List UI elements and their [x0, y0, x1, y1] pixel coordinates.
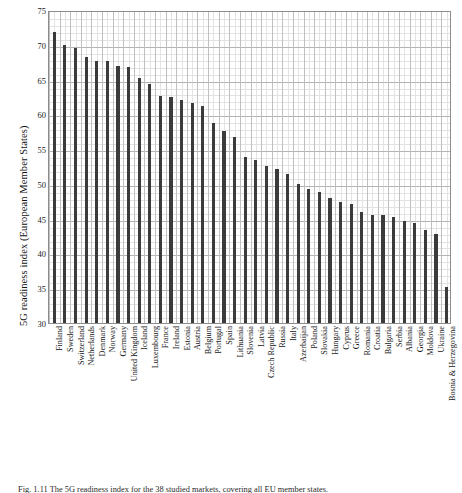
x-axis-tick-label: Germany	[120, 326, 128, 356]
y-axis-tick-label: 35	[22, 285, 46, 294]
x-axis-tick-label: Albania	[406, 326, 414, 352]
y-axis-tick-label: 50	[22, 181, 46, 190]
bar	[328, 198, 331, 323]
y-axis-tick-label: 70	[22, 42, 46, 51]
bar	[201, 106, 204, 323]
y-axis-tick-label: 55	[22, 146, 46, 155]
x-axis-tick-label: Norway	[109, 326, 117, 352]
y-axis-tick-label: 45	[22, 216, 46, 225]
x-axis-tick-label: United Kingdom	[131, 326, 139, 381]
bar	[350, 204, 353, 323]
x-axis-tick-label: Austria	[194, 326, 202, 350]
x-axis-tick-label: Italy	[290, 326, 298, 341]
x-axis-tick-label: Iceland	[141, 326, 149, 350]
x-axis-tick-label: Denmark	[99, 326, 107, 356]
bar	[85, 57, 88, 323]
bar	[212, 123, 215, 323]
bar	[318, 192, 321, 323]
bar	[53, 32, 56, 323]
x-axis-tick-label: Latvia	[258, 326, 266, 347]
bar	[275, 169, 278, 323]
bar	[138, 78, 141, 323]
bar	[63, 45, 66, 323]
x-axis-tick-label: Belgium	[205, 326, 213, 354]
bar	[392, 217, 395, 323]
bar	[95, 61, 98, 323]
bar	[222, 131, 225, 323]
x-axis-tick-label: Sweden	[67, 326, 75, 352]
y-axis-tick-label: 65	[22, 77, 46, 86]
x-axis-tick-label: Ukraine	[438, 326, 446, 352]
bar	[233, 137, 236, 323]
bar	[413, 223, 416, 323]
bar	[106, 61, 109, 323]
x-axis-tick-label: Switzerland	[78, 326, 86, 365]
bar	[297, 184, 300, 323]
x-axis-tick-label: Bulgaria	[385, 326, 393, 354]
bar	[244, 157, 247, 323]
x-axis-tick-label: Azerbaijan	[300, 326, 308, 362]
x-axis-tick-label: Lithuania	[237, 326, 245, 357]
bar	[381, 215, 384, 323]
bar	[403, 221, 406, 323]
figure-container: a digital infrastructure comparison of 5…	[0, 0, 462, 493]
x-axis-tick-label: Romania	[364, 326, 372, 356]
x-axis-tick-label: Hungary	[332, 326, 340, 355]
x-axis-tick-label: Ireland	[173, 326, 181, 349]
x-axis-tick-labels: FinlandSwedenSwitzerlandNetherlandsDenma…	[48, 326, 451, 466]
bar	[371, 215, 374, 324]
x-axis-tick-label: Poland	[311, 326, 319, 349]
x-axis-tick-label: Portugal	[215, 326, 223, 354]
bar	[424, 230, 427, 323]
bar	[116, 66, 119, 323]
x-axis-tick-label: Slovakia	[321, 326, 329, 355]
x-axis-tick-label: Netherlands	[88, 326, 96, 366]
bar	[180, 100, 183, 323]
x-axis-tick-label: Russia	[279, 326, 287, 348]
x-axis-tick-label: Georgia	[417, 326, 425, 352]
bar	[286, 174, 289, 323]
x-axis-tick-label: Croatia	[374, 326, 382, 350]
plot-area	[48, 11, 451, 324]
x-axis-tick-label: Luxembourg	[152, 326, 160, 368]
figure-caption: Fig. 1.11 The 5G readiness index for the…	[18, 485, 450, 493]
bar	[127, 67, 130, 323]
y-axis-tick-label: 30	[22, 320, 46, 329]
x-axis-tick-label: Czech Republic	[268, 326, 276, 378]
x-axis-tick-label: Greece	[353, 326, 361, 349]
bar	[265, 166, 268, 323]
bar	[148, 84, 151, 323]
x-axis-tick-label: Spain	[226, 326, 234, 345]
bar	[339, 202, 342, 323]
y-axis-title-container: 5G readiness index (European Member Stat…	[2, 8, 22, 328]
bar	[169, 97, 172, 323]
x-axis-tick-label: Slovenia	[247, 326, 255, 355]
bar	[254, 160, 257, 323]
bar	[307, 189, 310, 323]
bar-series	[49, 12, 450, 323]
x-axis-tick-label: Bosnia & Herzegovina	[449, 326, 457, 401]
x-axis-tick-label: Estonia	[184, 326, 192, 351]
bar	[191, 103, 194, 323]
x-axis-tick-label: France	[162, 326, 170, 348]
bar	[360, 212, 363, 323]
x-axis-tick-label: Cyprus	[343, 326, 351, 350]
bar	[159, 96, 162, 323]
y-axis-tick-label: 40	[22, 250, 46, 259]
y-axis-tick-label: 60	[22, 111, 46, 120]
x-axis-tick-label: Serbia	[396, 326, 404, 347]
bar	[74, 48, 77, 323]
y-axis-tick-label: 75	[22, 7, 46, 16]
x-axis-tick-label: Finland	[56, 326, 64, 351]
y-axis-tick-labels: 75706560555045403530	[22, 8, 46, 328]
x-axis-tick-label: Moldova	[427, 326, 435, 356]
bar	[434, 234, 437, 323]
bar	[445, 287, 448, 323]
